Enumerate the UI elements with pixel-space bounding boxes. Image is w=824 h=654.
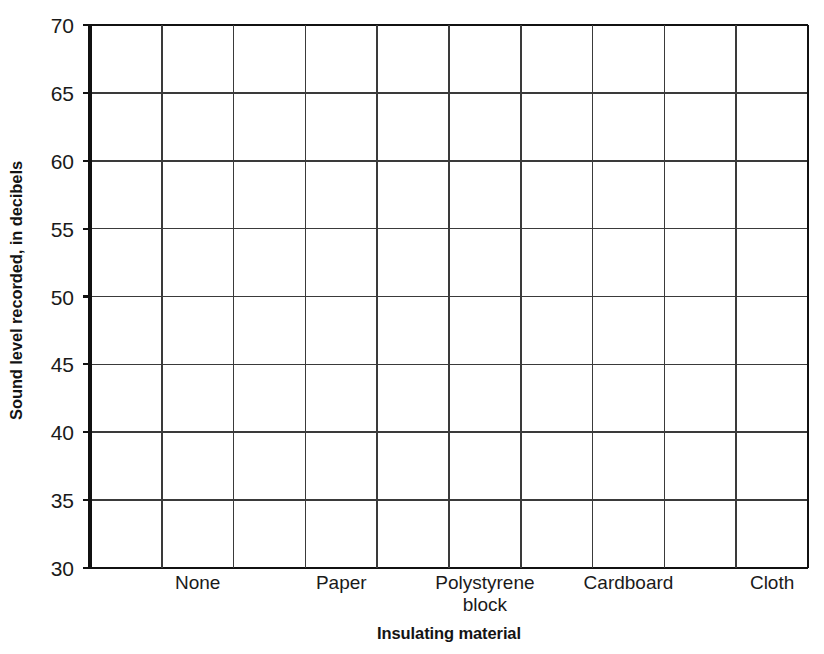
y-axis-tick-label: 45	[51, 354, 74, 375]
x-axis-tick-label: Cardboard	[584, 572, 674, 594]
chart-figure: Sound level recorded, in decibels 706560…	[0, 0, 824, 654]
y-axis-title-text: Sound level recorded, in decibels	[7, 161, 26, 420]
x-axis-tick-label: Paper	[316, 572, 367, 594]
y-axis-tick-label: 65	[51, 82, 74, 103]
x-axis-tick-label: None	[175, 572, 220, 594]
x-axis-tick-label-line: Cloth	[750, 572, 794, 594]
y-axis-tick-label: 70	[51, 15, 74, 36]
y-axis-tick-label: 50	[51, 286, 74, 307]
x-axis-tick-labels: NonePaperPolystyreneblockCardboardCloth	[90, 572, 808, 622]
x-axis-tick-label-line: Polystyrene	[435, 572, 534, 594]
y-axis-tick-label: 30	[51, 558, 74, 579]
y-axis-tick-label: 40	[51, 422, 74, 443]
x-axis-tick-label-line: None	[175, 572, 220, 594]
x-axis-tick-label-line: block	[435, 594, 534, 616]
x-axis-tick-label-line: Cardboard	[584, 572, 674, 594]
x-axis-title: Insulating material	[90, 624, 808, 643]
x-axis-tick-label: Polystyreneblock	[435, 572, 534, 616]
y-axis-tick-label: 55	[51, 218, 74, 239]
x-axis-tick-label-line: Paper	[316, 572, 367, 594]
y-axis-tick-labels: 706560555045403530	[34, 25, 82, 568]
y-axis-title: Sound level recorded, in decibels	[0, 0, 32, 580]
plot-gridlines	[82, 17, 816, 576]
plot-area	[90, 25, 808, 568]
y-axis-tick-label: 35	[51, 490, 74, 511]
x-axis-tick-label: Cloth	[750, 572, 794, 594]
y-axis-tick-label: 60	[51, 150, 74, 171]
